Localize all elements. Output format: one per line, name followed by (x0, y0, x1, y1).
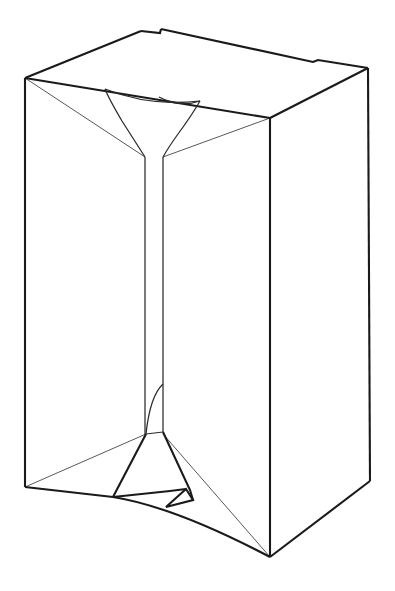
right-face-fill (270, 68, 370, 557)
left-face-fill (25, 78, 270, 557)
figure-canvas: Line drawing of a rectangular carton wit… (0, 0, 395, 591)
face-fills (25, 29, 370, 557)
carton-line-drawing: Line drawing of a rectangular carton wit… (0, 0, 395, 591)
